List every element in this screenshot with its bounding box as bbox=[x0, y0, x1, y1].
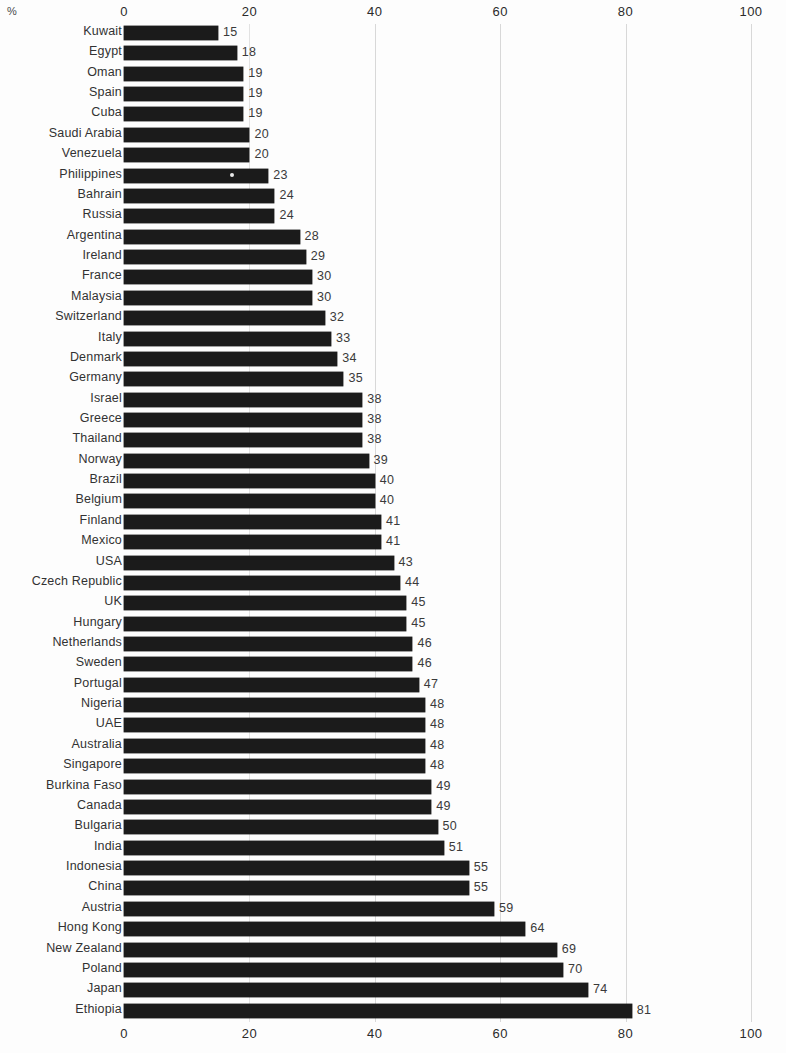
bar-row: China55 bbox=[0, 879, 786, 900]
bar-row: France30 bbox=[0, 268, 786, 289]
bar-value-label: 45 bbox=[411, 616, 426, 631]
bar bbox=[124, 230, 300, 244]
x-axis-bottom: 020406080100 bbox=[0, 1026, 786, 1046]
category-label: Mexico bbox=[0, 533, 122, 548]
category-label: Poland bbox=[0, 961, 122, 976]
category-label: Italy bbox=[0, 330, 122, 345]
bar-row: Switzerland32 bbox=[0, 309, 786, 330]
category-label: Indonesia bbox=[0, 859, 122, 874]
category-label: USA bbox=[0, 554, 122, 569]
bar-value-label: 19 bbox=[248, 66, 263, 81]
category-label: Greece bbox=[0, 411, 122, 426]
x-axis-tick-0: 0 bbox=[120, 4, 128, 19]
bar-row: UK45 bbox=[0, 594, 786, 615]
bar bbox=[124, 678, 419, 692]
bar-row: Ireland29 bbox=[0, 248, 786, 269]
category-label: Oman bbox=[0, 65, 122, 80]
bar-row: Nigeria48 bbox=[0, 696, 786, 717]
bar-value-label: 33 bbox=[336, 331, 351, 346]
category-label: UAE bbox=[0, 716, 122, 731]
category-label: Malaysia bbox=[0, 289, 122, 304]
category-label: Thailand bbox=[0, 431, 122, 446]
bar-value-label: 59 bbox=[499, 901, 514, 916]
bar bbox=[124, 718, 425, 732]
category-label: Hungary bbox=[0, 615, 122, 630]
bar bbox=[124, 87, 243, 101]
bar-value-label: 44 bbox=[405, 575, 420, 590]
category-label: Singapore bbox=[0, 757, 122, 772]
bar-row: Indonesia55 bbox=[0, 859, 786, 880]
bar bbox=[124, 841, 444, 855]
bar-value-label: 35 bbox=[348, 371, 363, 386]
bar bbox=[124, 943, 557, 957]
bar bbox=[124, 596, 406, 610]
bar bbox=[124, 983, 588, 997]
bar-row: Cuba19 bbox=[0, 105, 786, 126]
bar bbox=[124, 46, 237, 60]
bar-value-label: 41 bbox=[386, 514, 401, 529]
category-label: Austria bbox=[0, 900, 122, 915]
bar-value-label: 18 bbox=[242, 45, 257, 60]
bar-value-label: 43 bbox=[399, 555, 414, 570]
bar bbox=[124, 474, 375, 488]
x-axis-tick-20: 20 bbox=[242, 4, 257, 19]
bar-row: Sweden46 bbox=[0, 655, 786, 676]
bar bbox=[124, 413, 362, 427]
bar-value-label: 40 bbox=[380, 473, 395, 488]
category-label: Ethiopia bbox=[0, 1002, 122, 1017]
scan-speck bbox=[230, 173, 234, 177]
bar bbox=[124, 393, 362, 407]
bar-row: Belgium40 bbox=[0, 492, 786, 513]
bar-row: Finland41 bbox=[0, 513, 786, 534]
bar bbox=[124, 352, 337, 366]
bar bbox=[124, 759, 425, 773]
category-label: UK bbox=[0, 594, 122, 609]
bar bbox=[124, 535, 381, 549]
bar-value-label: 32 bbox=[330, 310, 345, 325]
x-axis-tick-100: 100 bbox=[739, 1026, 762, 1041]
bar bbox=[124, 311, 325, 325]
bar-value-label: 29 bbox=[311, 249, 326, 264]
bar-value-label: 39 bbox=[374, 453, 389, 468]
category-label: Brazil bbox=[0, 472, 122, 487]
bar-row: Brazil40 bbox=[0, 472, 786, 493]
bar-row: Spain19 bbox=[0, 85, 786, 106]
category-label: Bulgaria bbox=[0, 818, 122, 833]
category-label: Sweden bbox=[0, 655, 122, 670]
bar-row: Singapore48 bbox=[0, 757, 786, 778]
bar bbox=[124, 67, 243, 81]
x-axis-tick-20: 20 bbox=[242, 1026, 257, 1041]
bar-row: India51 bbox=[0, 839, 786, 860]
category-label: India bbox=[0, 839, 122, 854]
category-label: France bbox=[0, 268, 122, 283]
bar-row: Greece38 bbox=[0, 411, 786, 432]
category-label: Czech Republic bbox=[0, 574, 122, 589]
bar bbox=[124, 657, 412, 671]
bar-value-label: 49 bbox=[436, 779, 451, 794]
bar-value-label: 24 bbox=[279, 188, 294, 203]
bar bbox=[124, 637, 412, 651]
bar bbox=[124, 820, 438, 834]
category-label: Israel bbox=[0, 391, 122, 406]
bar-value-label: 38 bbox=[367, 412, 382, 427]
bar-value-label: 50 bbox=[443, 819, 458, 834]
bar bbox=[124, 861, 469, 875]
bar bbox=[124, 148, 249, 162]
bar bbox=[124, 556, 394, 570]
x-axis-tick-60: 60 bbox=[492, 1026, 507, 1041]
category-label: Finland bbox=[0, 513, 122, 528]
bar bbox=[124, 494, 375, 508]
bar-row: Denmark34 bbox=[0, 350, 786, 371]
bar-row: Malaysia30 bbox=[0, 289, 786, 310]
bar-row: Hungary45 bbox=[0, 615, 786, 636]
x-axis-tick-40: 40 bbox=[367, 1026, 382, 1041]
bar-row: Kuwait15 bbox=[0, 24, 786, 45]
bar-value-label: 49 bbox=[436, 799, 451, 814]
bar-value-label: 38 bbox=[367, 392, 382, 407]
bar bbox=[124, 250, 306, 264]
category-label: Venezuela bbox=[0, 146, 122, 161]
x-axis-tick-0: 0 bbox=[120, 1026, 128, 1041]
bar bbox=[124, 291, 312, 305]
bar bbox=[124, 698, 425, 712]
bar bbox=[124, 1004, 632, 1018]
